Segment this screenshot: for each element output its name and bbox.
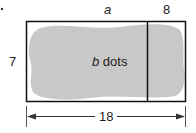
arrow-left-icon bbox=[27, 114, 36, 120]
arrow-right-icon bbox=[176, 114, 185, 120]
label-8: 8 bbox=[163, 3, 170, 16]
label-b-dots: b dots bbox=[92, 55, 127, 68]
label-7: 7 bbox=[9, 55, 16, 68]
label-a: a bbox=[104, 3, 111, 16]
label-dots: dots bbox=[99, 54, 127, 69]
bullet-dot bbox=[1, 8, 3, 10]
label-18: 18 bbox=[99, 110, 113, 123]
